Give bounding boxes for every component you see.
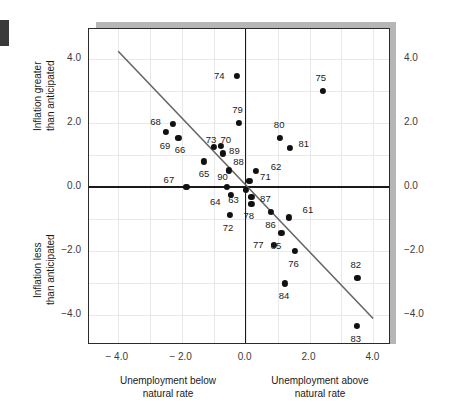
data-point-label-81: 81 (298, 139, 309, 149)
y-tick-label-left: 2.0 (67, 117, 81, 127)
data-point-label-62: 62 (271, 162, 282, 172)
data-point-label-87: 87 (260, 194, 271, 204)
data-point-label-68: 68 (150, 117, 161, 127)
y-tick-label-right: 4.0 (404, 53, 418, 63)
data-point-label-70: 70 (220, 135, 231, 145)
data-point-label-61: 61 (303, 205, 314, 215)
y-tick-label-left: −2.0 (61, 245, 81, 255)
y-tick-label-left: −4.0 (61, 309, 81, 319)
data-point-label-90: 90 (217, 173, 228, 183)
x-tick-label: − 4.0 (105, 352, 128, 362)
data-point-label-73: 73 (206, 135, 217, 145)
y-tick-label-right: −4.0 (404, 309, 424, 319)
y-tick-label-right: 0.0 (404, 181, 418, 191)
x-tick-label: 0.0 (238, 352, 252, 362)
scatter-plot-area: 6162636465666768697071727374757677787980… (88, 28, 390, 344)
x-tick-label: 4.0 (365, 352, 379, 362)
data-point-label-88: 88 (233, 157, 244, 167)
data-point-label-65: 65 (199, 169, 210, 179)
data-point-label-76: 76 (288, 259, 299, 269)
data-point-label-86: 86 (265, 220, 276, 230)
data-point-label-84: 84 (279, 291, 290, 301)
data-point-label-69: 69 (160, 141, 171, 151)
trendline-segment (118, 51, 373, 318)
x-tick-label: 2.0 (302, 352, 316, 362)
data-point-label-64: 64 (210, 198, 221, 208)
data-point-label-72: 72 (223, 223, 234, 233)
data-point-label-89: 89 (229, 147, 240, 157)
data-point-label-83: 83 (351, 334, 362, 344)
data-point-label-71: 71 (260, 173, 271, 183)
y-tick-label-right: 2.0 (404, 117, 418, 127)
data-point-label-75: 75 (315, 74, 326, 84)
data-point-label-67: 67 (164, 175, 175, 185)
data-point-label-77: 77 (253, 240, 264, 250)
plot-shadow-right (390, 22, 396, 344)
phillips-curve-figure: 6162636465666768697071727374757677787980… (0, 0, 451, 416)
data-point-label-85: 85 (271, 241, 282, 251)
y-tick-label-left: 4.0 (67, 53, 81, 63)
x-tick-label: − 2.0 (169, 352, 192, 362)
data-point-label-78: 78 (243, 212, 254, 222)
data-point-label-74: 74 (214, 71, 225, 81)
data-point-label-79: 79 (232, 106, 243, 116)
y-tick-label-right: −2.0 (404, 245, 424, 255)
y-axis-caption-lower: Inflation less than anticipated (32, 216, 57, 324)
data-point-label-66: 66 (175, 146, 186, 156)
data-point-label-80: 80 (274, 120, 285, 130)
x-axis-caption-right: Unemployment above natural rate (271, 374, 368, 400)
y-tick-label-left: 0.0 (67, 181, 81, 191)
x-axis-caption-left: Unemployment below natural rate (120, 374, 216, 400)
data-point-label-82: 82 (351, 260, 362, 270)
y-axis-caption-upper: Inflation greater than anticipated (32, 42, 57, 150)
page-edge-marker (0, 20, 9, 46)
